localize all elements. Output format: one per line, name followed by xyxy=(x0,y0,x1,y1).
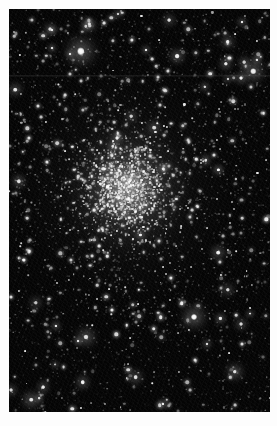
sky-background xyxy=(9,9,270,412)
astronomical-photograph xyxy=(9,9,270,412)
image-page xyxy=(0,0,277,426)
